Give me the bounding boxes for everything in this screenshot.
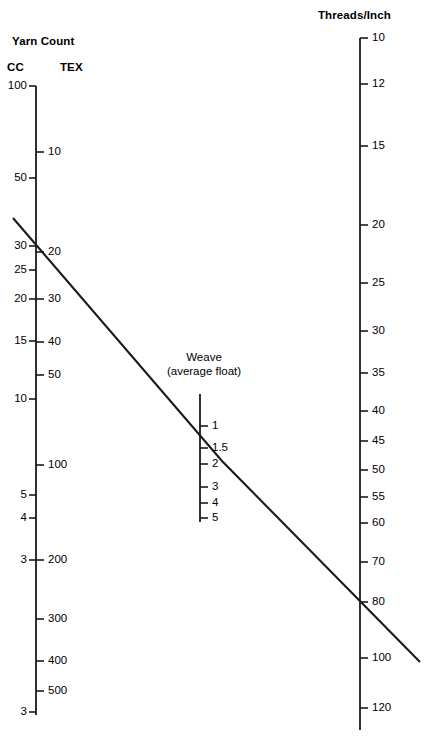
middle-axis-tick: 2	[212, 458, 218, 470]
left-axis-cc-tick: 15	[0, 335, 27, 347]
left-axis-cc-tick: 4	[0, 512, 27, 524]
middle-axis-title-line1: Weave	[156, 350, 252, 364]
left-axis-cc-tick: 5	[0, 489, 27, 501]
left-axis-cc-label: CC	[7, 61, 24, 73]
right-axis-tick: 30	[372, 325, 385, 337]
right-axis-tick: 60	[372, 517, 385, 529]
right-axis-tick: 15	[372, 140, 385, 152]
middle-axis-title-line2: (average float)	[146, 364, 262, 378]
left-axis-tex-tick: 500	[48, 685, 67, 697]
left-axis-tex-label: TEX	[60, 61, 83, 73]
left-axis-tex-tick: 300	[48, 613, 67, 625]
left-axis-tex-tick: 100	[48, 459, 67, 471]
right-axis-tick: 35	[372, 367, 385, 379]
right-axis-tick: 12	[372, 78, 385, 90]
left-axis-tex-tick: 200	[48, 554, 67, 566]
left-axis-cc-tick: 25	[0, 264, 27, 276]
middle-axis-tick: 3	[212, 481, 218, 493]
right-axis-tick: 20	[372, 219, 385, 231]
right-axis-title: Threads/Inch	[318, 9, 391, 21]
right-axis-tick: 120	[372, 702, 391, 714]
left-axis-tex-tick: 40	[48, 336, 61, 348]
left-axis-title: Yarn Count	[12, 35, 74, 47]
right-axis-tick: 45	[372, 435, 385, 447]
right-axis-tick: 55	[372, 491, 385, 503]
right-axis-tick: 40	[372, 405, 385, 417]
right-axis-tick: 10	[372, 32, 385, 44]
left-axis-cc-tick: 20	[0, 293, 27, 305]
middle-axis-tick: 4	[212, 497, 218, 509]
left-axis-cc-ticks	[29, 86, 36, 712]
nomogram-figure: Yarn Count CC TEX Threads/Inch Weave (av…	[0, 0, 429, 738]
left-axis-cc-tick: 30	[0, 240, 27, 252]
left-axis-tex-ticks	[36, 152, 44, 691]
isopleth-line	[13, 218, 420, 662]
middle-axis-tick: 1.5	[212, 442, 228, 454]
right-axis-tick: 70	[372, 556, 385, 568]
right-axis-tick: 50	[372, 464, 385, 476]
left-axis-cc-tick: 50	[0, 172, 27, 184]
right-axis-tick: 80	[372, 596, 385, 608]
right-axis-tick: 25	[372, 277, 385, 289]
left-axis-tex-tick: 400	[48, 655, 67, 667]
left-axis-cc-tick: 100	[0, 80, 27, 92]
middle-axis-tick: 1	[212, 420, 218, 432]
middle-axis-tick: 5	[212, 512, 218, 524]
left-axis-cc-tick: 3	[0, 706, 27, 718]
left-axis-tex-tick: 20	[48, 246, 61, 258]
left-axis-tex-tick: 30	[48, 293, 61, 305]
right-axis-tick: 100	[372, 652, 391, 664]
left-axis-tex-tick: 50	[48, 369, 61, 381]
left-axis-tex-tick: 10	[48, 146, 61, 158]
left-axis-cc-tick: 10	[0, 393, 27, 405]
left-axis-cc-tick: 3	[0, 554, 27, 566]
